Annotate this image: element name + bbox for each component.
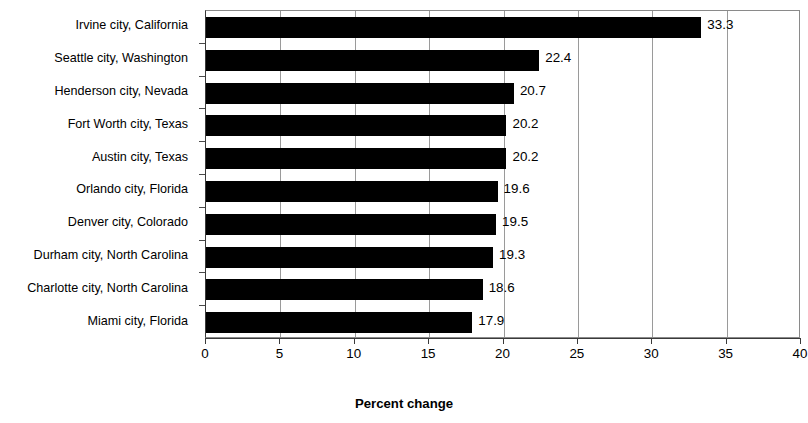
- category-label: Fort Worth city, Texas: [0, 118, 188, 131]
- bar: [206, 312, 472, 333]
- x-axis-tick: [800, 338, 801, 344]
- bar-value-label: 22.4: [545, 51, 571, 65]
- gridline: [578, 11, 579, 337]
- x-axis-tick: [503, 338, 504, 344]
- bar: [206, 214, 496, 235]
- x-axis-title: Percent change: [0, 396, 808, 411]
- x-axis-tick-label: 35: [706, 346, 746, 361]
- bar: [206, 181, 498, 202]
- bar: [206, 279, 483, 300]
- x-axis-tick: [354, 338, 355, 344]
- bar-value-label: 20.2: [512, 150, 538, 164]
- category-label: Denver city, Colorado: [0, 216, 188, 229]
- category-label: Seattle city, Washington: [0, 52, 188, 65]
- category-tick: [199, 174, 205, 175]
- bar-value-label: 19.5: [502, 215, 528, 229]
- bar-value-label: 17.9: [478, 314, 504, 328]
- category-tick: [199, 272, 205, 273]
- bar: [206, 148, 506, 169]
- x-axis-tick: [651, 338, 652, 344]
- x-axis-tick-label: 25: [557, 346, 597, 361]
- bar: [206, 50, 539, 71]
- category-label: Irvine city, California: [0, 19, 188, 32]
- x-axis-tick-label: 10: [334, 346, 374, 361]
- x-axis-tick: [279, 338, 280, 344]
- category-tick: [199, 76, 205, 77]
- x-axis-tick: [205, 338, 206, 344]
- x-axis-tick-label: 5: [259, 346, 299, 361]
- category-label: Henderson city, Nevada: [0, 85, 188, 98]
- x-axis-tick-label: 20: [483, 346, 523, 361]
- category-label: Charlotte city, North Carolina: [0, 282, 188, 295]
- x-axis-tick: [577, 338, 578, 344]
- x-axis-tick: [428, 338, 429, 344]
- category-tick: [199, 240, 205, 241]
- x-axis-tick-label: 40: [780, 346, 808, 361]
- category-tick: [199, 108, 205, 109]
- category-label: Orlando city, Florida: [0, 183, 188, 196]
- bar: [206, 17, 701, 38]
- bar-value-label: 33.3: [707, 18, 733, 32]
- bar: [206, 83, 514, 104]
- x-axis-tick: [726, 338, 727, 344]
- bar-value-label: 19.3: [499, 248, 525, 262]
- bar-chart: Irvine city, CaliforniaSeattle city, Was…: [0, 0, 808, 423]
- category-label: Austin city, Texas: [0, 151, 188, 164]
- x-axis-tick-label: 15: [408, 346, 448, 361]
- bar-value-label: 20.2: [512, 117, 538, 131]
- category-axis-labels: Irvine city, CaliforniaSeattle city, Was…: [0, 10, 198, 338]
- bar: [206, 115, 506, 136]
- category-label: Durham city, North Carolina: [0, 249, 188, 262]
- x-axis-tick-label: 0: [185, 346, 225, 361]
- category-tick: [199, 305, 205, 306]
- category-tick: [199, 43, 205, 44]
- gridline: [727, 11, 728, 337]
- bar-value-label: 20.7: [520, 84, 546, 98]
- bar-value-label: 19.6: [504, 182, 530, 196]
- bar: [206, 247, 493, 268]
- category-label: Miami city, Florida: [0, 315, 188, 328]
- category-tick: [199, 207, 205, 208]
- bar-value-label: 18.6: [489, 281, 515, 295]
- x-axis-tick-label: 30: [631, 346, 671, 361]
- category-tick: [199, 141, 205, 142]
- gridline: [652, 11, 653, 337]
